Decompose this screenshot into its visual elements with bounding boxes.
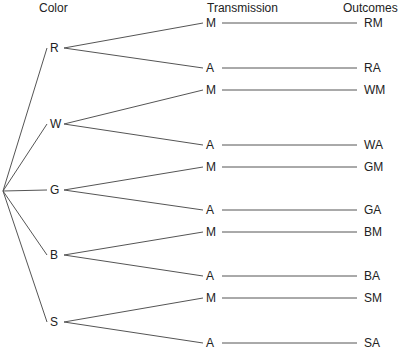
branch-color-to-transmission <box>64 190 203 210</box>
outcome-node: BA <box>364 269 380 283</box>
transmission-node: M <box>206 160 216 174</box>
transmission-node: A <box>206 203 214 217</box>
branch-color-to-transmission <box>64 167 203 190</box>
branch-root-to-color <box>3 190 47 191</box>
color-node: S <box>50 315 58 329</box>
header-transmission: Transmission <box>207 1 278 15</box>
branch-color-to-transmission <box>64 322 203 343</box>
branch-color-to-transmission <box>64 124 203 145</box>
branch-color-to-transmission <box>64 48 203 68</box>
transmission-node: M <box>206 16 216 30</box>
header-color: Color <box>39 1 68 15</box>
branch-color-to-transmission <box>64 255 203 276</box>
tree-branches <box>0 0 400 355</box>
outcome-node: WA <box>364 138 383 152</box>
header-outcomes: Outcomes <box>343 1 398 15</box>
color-node: G <box>50 183 59 197</box>
color-node: W <box>50 117 61 131</box>
outcome-node: BM <box>364 225 382 239</box>
outcome-node: RA <box>364 61 381 75</box>
branch-color-to-transmission <box>64 298 203 322</box>
outcome-node: WM <box>364 83 385 97</box>
outcome-node: SA <box>364 336 380 350</box>
outcome-node: GA <box>364 203 381 217</box>
outcome-node: SM <box>364 291 382 305</box>
branch-color-to-transmission <box>64 232 203 255</box>
transmission-node: A <box>206 138 214 152</box>
branch-color-to-transmission <box>64 23 203 48</box>
transmission-node: M <box>206 291 216 305</box>
transmission-node: M <box>206 225 216 239</box>
branch-color-to-transmission <box>64 90 203 124</box>
branch-root-to-color <box>3 191 47 255</box>
color-node: B <box>50 248 58 262</box>
branch-root-to-color <box>3 191 47 322</box>
branch-root-to-color <box>3 124 47 191</box>
tree-diagram: Color Transmission Outcomes RWGBSMRMARAM… <box>0 0 400 355</box>
transmission-node: M <box>206 83 216 97</box>
outcome-node: GM <box>364 160 383 174</box>
transmission-node: A <box>206 336 214 350</box>
color-node: R <box>50 41 59 55</box>
branch-root-to-color <box>3 48 47 191</box>
transmission-node: A <box>206 269 214 283</box>
transmission-node: A <box>206 61 214 75</box>
outcome-node: RM <box>364 16 383 30</box>
